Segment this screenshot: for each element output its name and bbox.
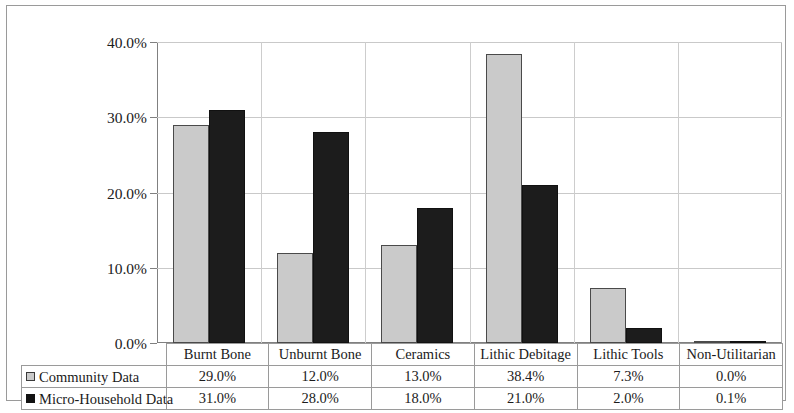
- y-axis-tick: [150, 193, 157, 194]
- table-row: Community Data29.0%12.0%13.0%38.4%7.3%0.…: [22, 366, 783, 388]
- y-axis-tick-label: 20.0%: [55, 186, 147, 202]
- table-cell-value: 0.0%: [680, 366, 783, 388]
- bar-micro-household: [313, 132, 349, 343]
- legend-item-community-data: Community Data: [22, 366, 167, 388]
- table-cell-value: 0.1%: [680, 388, 783, 410]
- y-axis-tick: [150, 268, 157, 269]
- table-cell-value: 13.0%: [372, 366, 475, 388]
- legend-label: Community Data: [39, 369, 139, 385]
- y-axis-tick-label: 30.0%: [55, 110, 147, 126]
- table-cell-value: 2.0%: [577, 388, 680, 410]
- plot-wrapper: [157, 42, 782, 343]
- chart-page: 0.0%10.0%20.0%30.0%40.0% Burnt BoneUnbur…: [0, 0, 794, 413]
- table-header-row: Burnt BoneUnburnt BoneCeramicsLithic Deb…: [22, 344, 783, 366]
- table-cell-value: 28.0%: [269, 388, 372, 410]
- table-cell-value: 18.0%: [372, 388, 475, 410]
- data-table: Burnt BoneUnburnt BoneCeramicsLithic Deb…: [21, 343, 783, 410]
- table-cell-value: 12.0%: [269, 366, 372, 388]
- table-cell-value: 29.0%: [166, 366, 269, 388]
- image-frame: 0.0%10.0%20.0%30.0%40.0% Burnt BoneUnbur…: [6, 5, 786, 401]
- table-column-header: Non-Utilitarian: [680, 344, 783, 366]
- table-cell-value: 21.0%: [474, 388, 577, 410]
- table-cell-value: 38.4%: [474, 366, 577, 388]
- y-axis-tick: [150, 117, 157, 118]
- bar-micro-household: [522, 185, 558, 343]
- bar-micro-household: [417, 208, 453, 343]
- bar-micro-household: [626, 328, 662, 343]
- table-column-header: Lithic Tools: [577, 344, 680, 366]
- table-row: Micro-Household Data31.0%28.0%18.0%21.0%…: [22, 388, 783, 410]
- bar-community: [486, 54, 522, 343]
- y-axis-tick: [150, 42, 157, 43]
- table-cell-value: 31.0%: [166, 388, 269, 410]
- legend-item-micro-household-data: Micro-Household Data: [22, 388, 167, 410]
- bar-community: [173, 125, 209, 343]
- table-column-header: Lithic Debitage: [474, 344, 577, 366]
- bar-community: [590, 288, 626, 343]
- y-axis-tick-label: 10.0%: [55, 261, 147, 277]
- bar-community: [381, 245, 417, 343]
- table-cell-value: 7.3%: [577, 366, 680, 388]
- legend-swatch-icon: [26, 372, 35, 381]
- table-column-header: Ceramics: [372, 344, 475, 366]
- bar-micro-household: [209, 110, 245, 343]
- bar-series-layer: [157, 42, 782, 343]
- y-axis-tick-label: 40.0%: [55, 35, 147, 51]
- table-corner-cell: [22, 344, 167, 366]
- legend-label: Micro-Household Data: [39, 391, 173, 407]
- table-column-header: Unburnt Bone: [269, 344, 372, 366]
- table-column-header: Burnt Bone: [166, 344, 269, 366]
- legend-swatch-icon: [26, 394, 35, 403]
- bar-community: [277, 253, 313, 343]
